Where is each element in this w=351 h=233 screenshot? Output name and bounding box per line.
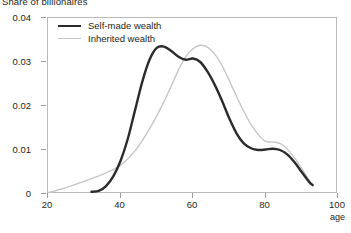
chart-legend: Self-made wealth Inherited wealth: [58, 19, 161, 45]
x-tick-mark: [337, 193, 338, 198]
legend-label-self-made: Self-made wealth: [88, 20, 161, 31]
x-tick-label: 100: [329, 199, 345, 210]
y-tick-mark: [41, 193, 46, 194]
x-axis-title: age: [330, 212, 345, 222]
x-tick-label: 60: [187, 199, 198, 210]
x-tick-label: 80: [259, 199, 270, 210]
y-tick-label: 0.03: [13, 56, 32, 67]
y-tick-label: 0.04: [13, 12, 32, 23]
y-tick-mark: [41, 105, 46, 106]
y-axis-labels: 00.010.020.030.04: [0, 17, 40, 193]
legend-item-inherited: Inherited wealth: [58, 32, 161, 45]
y-tick-label: 0: [26, 188, 31, 199]
x-tick-mark: [192, 193, 193, 198]
chart-container: Share of billionaires 00.010.020.030.04 …: [0, 0, 351, 233]
legend-line-icon-inherited: [58, 38, 81, 39]
legend-line-icon-self-made: [58, 25, 81, 27]
y-tick-mark: [41, 149, 46, 150]
x-tick-mark: [120, 193, 121, 198]
legend-item-self-made: Self-made wealth: [58, 19, 161, 32]
x-tick-mark: [47, 193, 48, 198]
y-tick-mark: [41, 17, 46, 18]
x-tick-label: 20: [42, 199, 53, 210]
y-tick-mark: [41, 61, 46, 62]
chart-title: Share of billionaires: [2, 0, 88, 7]
series-line-self-made-wealth: [92, 46, 313, 192]
x-tick-label: 40: [114, 199, 125, 210]
legend-label-inherited: Inherited wealth: [88, 33, 155, 44]
series-line-inherited-wealth: [48, 45, 313, 192]
x-tick-mark: [265, 193, 266, 198]
x-axis-labels: 20406080100: [47, 196, 337, 212]
y-tick-label: 0.02: [13, 100, 32, 111]
y-tick-label: 0.01: [13, 144, 32, 155]
